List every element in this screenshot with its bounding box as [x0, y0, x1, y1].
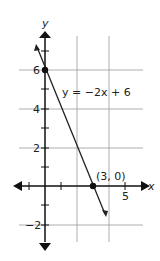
y-tick-2: 2 — [33, 142, 40, 155]
y-tick-6: 6 — [33, 64, 40, 77]
x-tick-5: 5 — [122, 190, 129, 203]
y-axis-label: y — [41, 17, 49, 30]
line-arrow-down-icon — [102, 210, 108, 217]
line-graph: y x 6 4 2 −2 5 y = −2x + 6 (3, 0) — [0, 0, 160, 261]
y-axis-down-arrow-icon — [39, 243, 51, 251]
point-label: (3, 0) — [96, 170, 126, 183]
y-tick-neg2: −2 — [25, 219, 41, 232]
y-axis-up-arrow-icon — [39, 31, 51, 38]
x-intercept-point — [90, 183, 96, 189]
x-axis-left-arrow-icon — [13, 181, 22, 191]
y-intercept-point — [42, 67, 48, 73]
y-tick-4: 4 — [33, 103, 40, 116]
line-arrow-up-icon — [34, 44, 40, 51]
x-axis-label: x — [147, 180, 155, 193]
equation-label: y = −2x + 6 — [62, 86, 131, 99]
